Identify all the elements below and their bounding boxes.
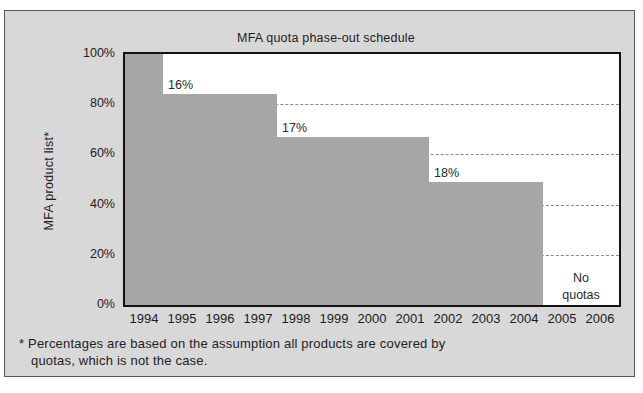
- no-quotas-line: quotas: [543, 287, 619, 304]
- area-segment-1994: [125, 54, 163, 305]
- no-quotas-line: No: [543, 270, 619, 287]
- area-segment-1995: [163, 94, 277, 305]
- y-axis-label: MFA product list*: [42, 111, 58, 251]
- y-tick-20: 20%: [67, 247, 115, 261]
- chart-canvas: MFA quota phase-out schedule MFA product…: [0, 0, 643, 393]
- plot-area: 16%17%18%Noquotas: [123, 52, 621, 307]
- no-quotas-label: Noquotas: [543, 270, 619, 304]
- step-label-18pct: 18%: [434, 166, 459, 180]
- area-segment-1998: [277, 137, 429, 305]
- step-label-16pct: 16%: [168, 78, 193, 92]
- figure-frame: MFA quota phase-out schedule MFA product…: [4, 10, 635, 377]
- footnote-line-1: * Percentages are based on the assumptio…: [19, 336, 445, 351]
- step-label-17pct: 17%: [282, 121, 307, 135]
- area-segment-2002: [429, 182, 543, 305]
- y-tick-0: 0%: [67, 297, 115, 311]
- y-tick-80: 80%: [67, 96, 115, 110]
- chart-title: MFA quota phase-out schedule: [31, 31, 621, 45]
- y-tick-60: 60%: [67, 146, 115, 160]
- y-tick-40: 40%: [67, 197, 115, 211]
- footnote-line-2: quotas, which is not the case.: [19, 353, 208, 368]
- y-tick-100: 100%: [67, 46, 115, 60]
- x-tick-2006: 2006: [575, 311, 625, 326]
